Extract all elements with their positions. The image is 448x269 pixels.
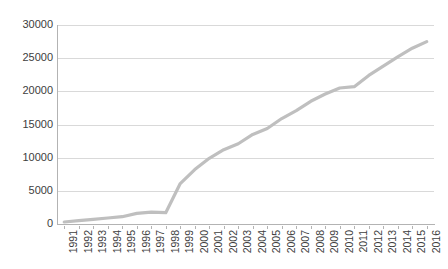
- x-tick-mark: [122, 226, 123, 229]
- x-tick-label: 1993: [97, 230, 108, 253]
- x-tick-label: 1997: [155, 230, 166, 253]
- x-tick-label: 1996: [141, 230, 152, 253]
- x-tick-mark: [108, 226, 109, 229]
- x-tick-label: 2001: [213, 230, 224, 253]
- x-tick-mark: [311, 226, 312, 229]
- x-tick-label: 1991: [68, 230, 79, 253]
- x-tick-label: 1994: [112, 230, 123, 253]
- x-tick-mark: [369, 226, 370, 229]
- x-tick-mark: [195, 226, 196, 229]
- x-tick-label: 2015: [416, 230, 427, 253]
- x-tick-label: 2010: [344, 230, 355, 253]
- x-tick-label: 2000: [199, 230, 210, 253]
- x-tick-mark: [137, 226, 138, 229]
- x-tick-mark: [180, 226, 181, 229]
- x-tick-label: 2003: [242, 230, 253, 253]
- x-tick-label: 1998: [170, 230, 181, 253]
- x-tick-label: 2006: [286, 230, 297, 253]
- x-tick-label: 1999: [184, 230, 195, 253]
- x-axis-labels: 1991199219931994199519961997199819992000…: [57, 226, 435, 269]
- x-tick-mark: [267, 226, 268, 229]
- x-tick-mark: [325, 226, 326, 229]
- x-tick-mark: [383, 226, 384, 229]
- x-tick-mark: [79, 226, 80, 229]
- x-tick-label: 2016: [431, 230, 442, 253]
- x-tick-mark: [296, 226, 297, 229]
- x-tick-mark: [253, 226, 254, 229]
- x-tick-mark: [340, 226, 341, 229]
- x-tick-label: 2008: [315, 230, 326, 253]
- x-tick-mark: [354, 226, 355, 229]
- x-tick-label: 2009: [329, 230, 340, 253]
- x-tick-label: 1992: [83, 230, 94, 253]
- x-tick-mark: [224, 226, 225, 229]
- x-tick-label: 2011: [358, 230, 369, 253]
- x-tick-mark: [64, 226, 65, 229]
- x-tick-label: 1995: [126, 230, 137, 253]
- x-tick-mark: [93, 226, 94, 229]
- x-tick-mark: [412, 226, 413, 229]
- x-tick-mark: [166, 226, 167, 229]
- x-tick-mark: [209, 226, 210, 229]
- x-tick-label: 2014: [402, 230, 413, 253]
- x-tick-mark: [238, 226, 239, 229]
- x-tick-label: 2007: [300, 230, 311, 253]
- x-tick-mark: [151, 226, 152, 229]
- x-tick-label: 2013: [387, 230, 398, 253]
- series-1-line: [64, 42, 427, 222]
- x-tick-label: 2005: [271, 230, 282, 253]
- x-tick-mark: [398, 226, 399, 229]
- x-tick-mark: [427, 226, 428, 229]
- x-tick-label: 2012: [373, 230, 384, 253]
- x-tick-mark: [282, 226, 283, 229]
- line-chart: 050001000015000200002500030000 199119921…: [0, 0, 448, 269]
- x-tick-label: 2004: [257, 230, 268, 253]
- x-tick-label: 2002: [228, 230, 239, 253]
